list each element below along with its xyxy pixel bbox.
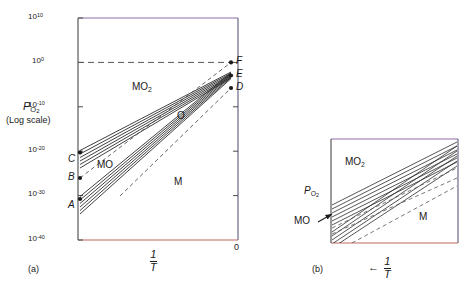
point-label-B: B (68, 172, 75, 182)
point-label-D: D (236, 82, 243, 92)
panel-a-endpoint-dots (78, 60, 233, 201)
point-dot-E (229, 73, 233, 77)
y-tick-label-10e-20: 10-20 (28, 146, 45, 154)
x-axis-right-tick-label: 0 (234, 243, 239, 252)
region-label-mo2-a: MO2 (132, 82, 152, 93)
point-dot-C (78, 150, 82, 154)
line-fan-upper (80, 72, 231, 168)
x-axis-title-a: 1T (150, 249, 157, 273)
panel-a (78, 18, 238, 240)
x-axis-title-b: ← 1T (368, 256, 391, 280)
y-tick-label-10e-40: 10-40 (28, 235, 45, 243)
point-label-A: A (68, 200, 75, 210)
panel-b-line-fan-upper (332, 142, 457, 225)
y-axis-title: PO2 (23, 101, 39, 114)
y-axis-title-b: PO2 (304, 186, 319, 198)
y-axis-title-note: (Log scale) (6, 116, 51, 125)
region-label-mo-b: MO (294, 216, 310, 226)
region-label-mo2-b: MO2 (345, 157, 365, 168)
x-axis-arrow-b: ← (368, 261, 379, 273)
point-label-E: E (236, 69, 243, 79)
region-label-m-a: M (174, 177, 182, 187)
panel-b-mo-arrow (318, 214, 332, 222)
point-dot-D (229, 86, 233, 90)
y-tick-label-10e0: 100 (32, 57, 44, 65)
panel-caption-a: (a) (28, 265, 39, 274)
point-dot-B (78, 176, 82, 180)
y-tick-label-10e10: 1010 (28, 13, 43, 21)
region-label-m-b: M (419, 212, 427, 222)
panel-b (318, 139, 458, 248)
line-fan-lower (80, 73, 231, 214)
point-label-O: O (177, 111, 185, 121)
y-tick-label-10e-30: 10-30 (28, 190, 45, 198)
point-label-F: F (236, 56, 242, 66)
point-dot-A (78, 197, 82, 201)
panel-caption-b: (b) (312, 265, 323, 274)
region-label-mo-a: MO (97, 160, 113, 170)
point-dot-F (229, 60, 233, 64)
panel-a-frame (78, 18, 238, 240)
point-label-C: C (68, 154, 75, 164)
